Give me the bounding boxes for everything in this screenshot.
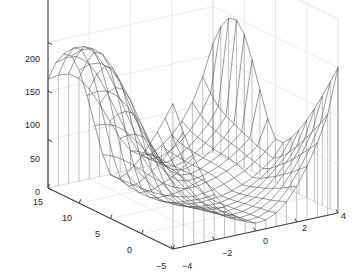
z-tick-label: 100 xyxy=(0,121,40,130)
z-tick-label: 200 xyxy=(0,55,40,64)
figure-panel: 050100150200 151050−5 −4−2024 xyxy=(0,0,362,280)
x-tick-label: 0 xyxy=(263,237,268,246)
x-tick-label: 2 xyxy=(302,224,307,233)
x-tick-label: −4 xyxy=(182,262,192,271)
y-tick-label: 5 xyxy=(95,230,100,239)
y-tick-label: 10 xyxy=(62,214,72,223)
y-tick-label: 0 xyxy=(127,246,132,255)
x-tick-label: 4 xyxy=(341,212,346,221)
axis-front-lines xyxy=(48,0,338,249)
axis-box-lines xyxy=(48,0,338,213)
z-tick-label: 0 xyxy=(0,188,40,197)
z-tick-label: 150 xyxy=(0,88,40,97)
x-tick-label: −2 xyxy=(222,249,232,258)
y-tick-label: 15 xyxy=(33,198,43,207)
z-tick-label: 50 xyxy=(0,155,40,164)
axis-tick-marks xyxy=(48,0,338,249)
y-tick-label: −5 xyxy=(156,262,166,271)
mesh-plot-svg xyxy=(0,0,362,280)
mesh-wireframe xyxy=(48,18,338,223)
grid-lines xyxy=(48,0,338,249)
